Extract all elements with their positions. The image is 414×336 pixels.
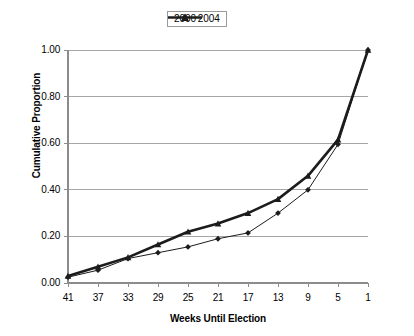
legend-item-2004: 2004 xyxy=(197,13,221,24)
series-line-2000 xyxy=(68,50,368,277)
data-point-marker xyxy=(155,250,161,256)
plot-area xyxy=(0,0,414,336)
data-point-marker xyxy=(245,230,251,236)
cumulative-proportion-line-chart: Cumulative Proportion Weeks Until Electi… xyxy=(0,0,414,336)
data-point-marker xyxy=(185,244,191,250)
series-line-2004 xyxy=(68,50,368,276)
legend-marker-triangle-icon xyxy=(168,12,202,23)
chart-legend: 2000 2004 xyxy=(167,11,227,27)
